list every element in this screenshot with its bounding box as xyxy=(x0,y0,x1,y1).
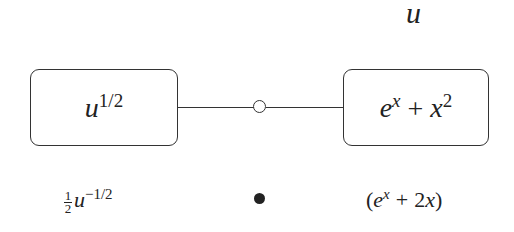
left-box-expression: u1/2 xyxy=(85,90,123,124)
bottom-left-derivative: 12u−1/2 xyxy=(64,186,113,215)
right-box-expression: ex+x2 xyxy=(380,90,453,124)
top-label-u: u xyxy=(406,0,421,30)
right-box: ex+x2 xyxy=(343,69,489,146)
connector-line-right xyxy=(266,107,343,108)
bottom-right-derivative: (ex+2x) xyxy=(366,186,442,213)
left-box: u1/2 xyxy=(30,69,178,146)
open-circle-node xyxy=(253,100,266,113)
connector-line-left xyxy=(178,107,254,108)
filled-dot-node xyxy=(254,193,265,204)
